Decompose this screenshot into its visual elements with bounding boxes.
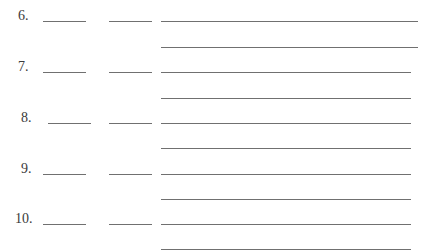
question-number: 8. xyxy=(21,111,32,125)
explanation-line-2[interactable] xyxy=(161,98,411,99)
question-number: 10. xyxy=(15,212,33,226)
answer-blank-2[interactable] xyxy=(109,224,152,225)
answer-blank-1[interactable] xyxy=(43,224,86,225)
answer-blank-1[interactable] xyxy=(43,72,86,73)
answer-blank-1[interactable] xyxy=(48,123,91,124)
explanation-line-1[interactable] xyxy=(161,224,411,225)
explanation-line-2[interactable] xyxy=(161,199,411,200)
question-number: 9. xyxy=(21,162,32,176)
explanation-line-1[interactable] xyxy=(161,72,411,73)
question-number: 7. xyxy=(18,60,29,74)
explanation-line-2[interactable] xyxy=(161,148,411,149)
answer-blank-2[interactable] xyxy=(109,123,152,124)
answer-blank-2[interactable] xyxy=(109,72,152,73)
explanation-line-1[interactable] xyxy=(161,123,411,124)
explanation-line-1[interactable] xyxy=(161,174,411,175)
answer-blank-2[interactable] xyxy=(109,174,152,175)
question-number: 6. xyxy=(18,9,29,23)
explanation-line-2[interactable] xyxy=(161,47,418,48)
answer-blank-2[interactable] xyxy=(109,21,152,22)
answer-blank-1[interactable] xyxy=(43,21,86,22)
explanation-line-1[interactable] xyxy=(161,21,418,22)
explanation-line-2[interactable] xyxy=(161,249,411,250)
answer-blank-1[interactable] xyxy=(43,174,86,175)
